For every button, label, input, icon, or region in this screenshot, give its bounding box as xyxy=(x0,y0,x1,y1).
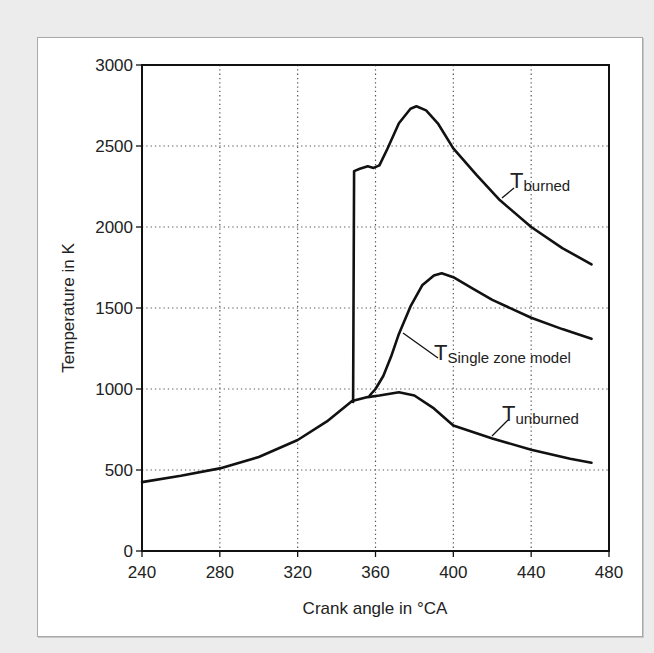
y-tick-label: 1500 xyxy=(95,299,133,318)
curve-unburned xyxy=(142,392,592,482)
y-tick-label: 500 xyxy=(105,461,133,480)
y-tick-label: 1000 xyxy=(95,380,133,399)
y-tick-label: 3000 xyxy=(95,56,133,75)
temperature-chart: 2402803203604004404800500100015002000250… xyxy=(0,0,654,653)
x-tick-label: 240 xyxy=(128,563,156,582)
unburned-curve-label: Tunburned xyxy=(502,401,579,427)
x-tick-label: 440 xyxy=(517,563,545,582)
tick-labels: 2402803203604004404800500100015002000250… xyxy=(95,56,623,582)
axes xyxy=(136,65,609,557)
curve-single-zone-model xyxy=(370,273,592,395)
x-tick-label: 400 xyxy=(439,563,467,582)
x-tick-label: 280 xyxy=(206,563,234,582)
grid-lines xyxy=(142,65,609,551)
y-tick-label: 0 xyxy=(124,542,133,561)
x-tick-label: 320 xyxy=(283,563,311,582)
y-axis-label: Temperature in K xyxy=(59,243,78,373)
single-zone-leader-line xyxy=(403,333,438,358)
x-tick-label: 360 xyxy=(361,563,389,582)
burned-curve-label: Tburned xyxy=(510,168,570,194)
x-axis-label: Crank angle in °CA xyxy=(303,599,448,618)
x-tick-label: 480 xyxy=(595,563,623,582)
y-tick-label: 2500 xyxy=(95,137,133,156)
single-zone-curve-label: TSingle zone model xyxy=(434,340,571,366)
y-tick-label: 2000 xyxy=(95,218,133,237)
